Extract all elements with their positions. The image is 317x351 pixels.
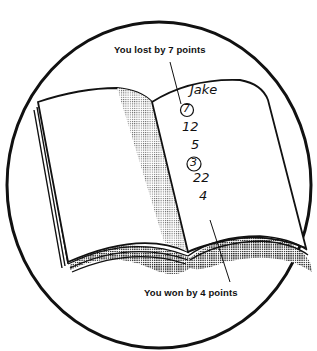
score-22: 22 [193,170,210,185]
player-name: Jake [190,82,217,97]
callout-won-by-4: You won by 4 points [144,287,238,298]
callout-lost-by-7: You lost by 7 points [114,44,206,55]
score-3: 3 [190,156,197,169]
score-12: 12 [182,119,199,134]
illustration: You lost by 7 points You won by 4 points… [0,0,317,351]
score-5: 5 [191,137,199,152]
score-7: 7 [183,102,190,115]
score-4: 4 [199,188,207,203]
